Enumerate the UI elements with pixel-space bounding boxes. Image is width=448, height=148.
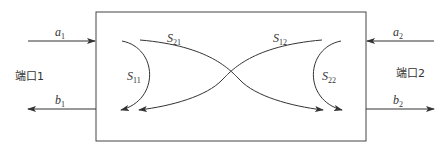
a1-label: a1 [55, 25, 65, 41]
s11-label: S11 [127, 69, 141, 85]
port2-label: 端口2 [396, 67, 425, 80]
b2-label: b2 [393, 93, 403, 109]
s21-curve [140, 40, 323, 110]
port1-label: 端口1 [15, 70, 44, 83]
s21-label: S21 [167, 31, 181, 47]
a2-label: a2 [393, 25, 403, 41]
s12-curve [139, 40, 322, 110]
s12-label: S12 [273, 31, 287, 47]
two-port-diagram: a1 b1 a2 b2 端口1 端口2 S11 S21 S12 S22 [0, 0, 448, 148]
s22-label: S22 [322, 69, 336, 85]
b1-label: b1 [55, 93, 65, 109]
